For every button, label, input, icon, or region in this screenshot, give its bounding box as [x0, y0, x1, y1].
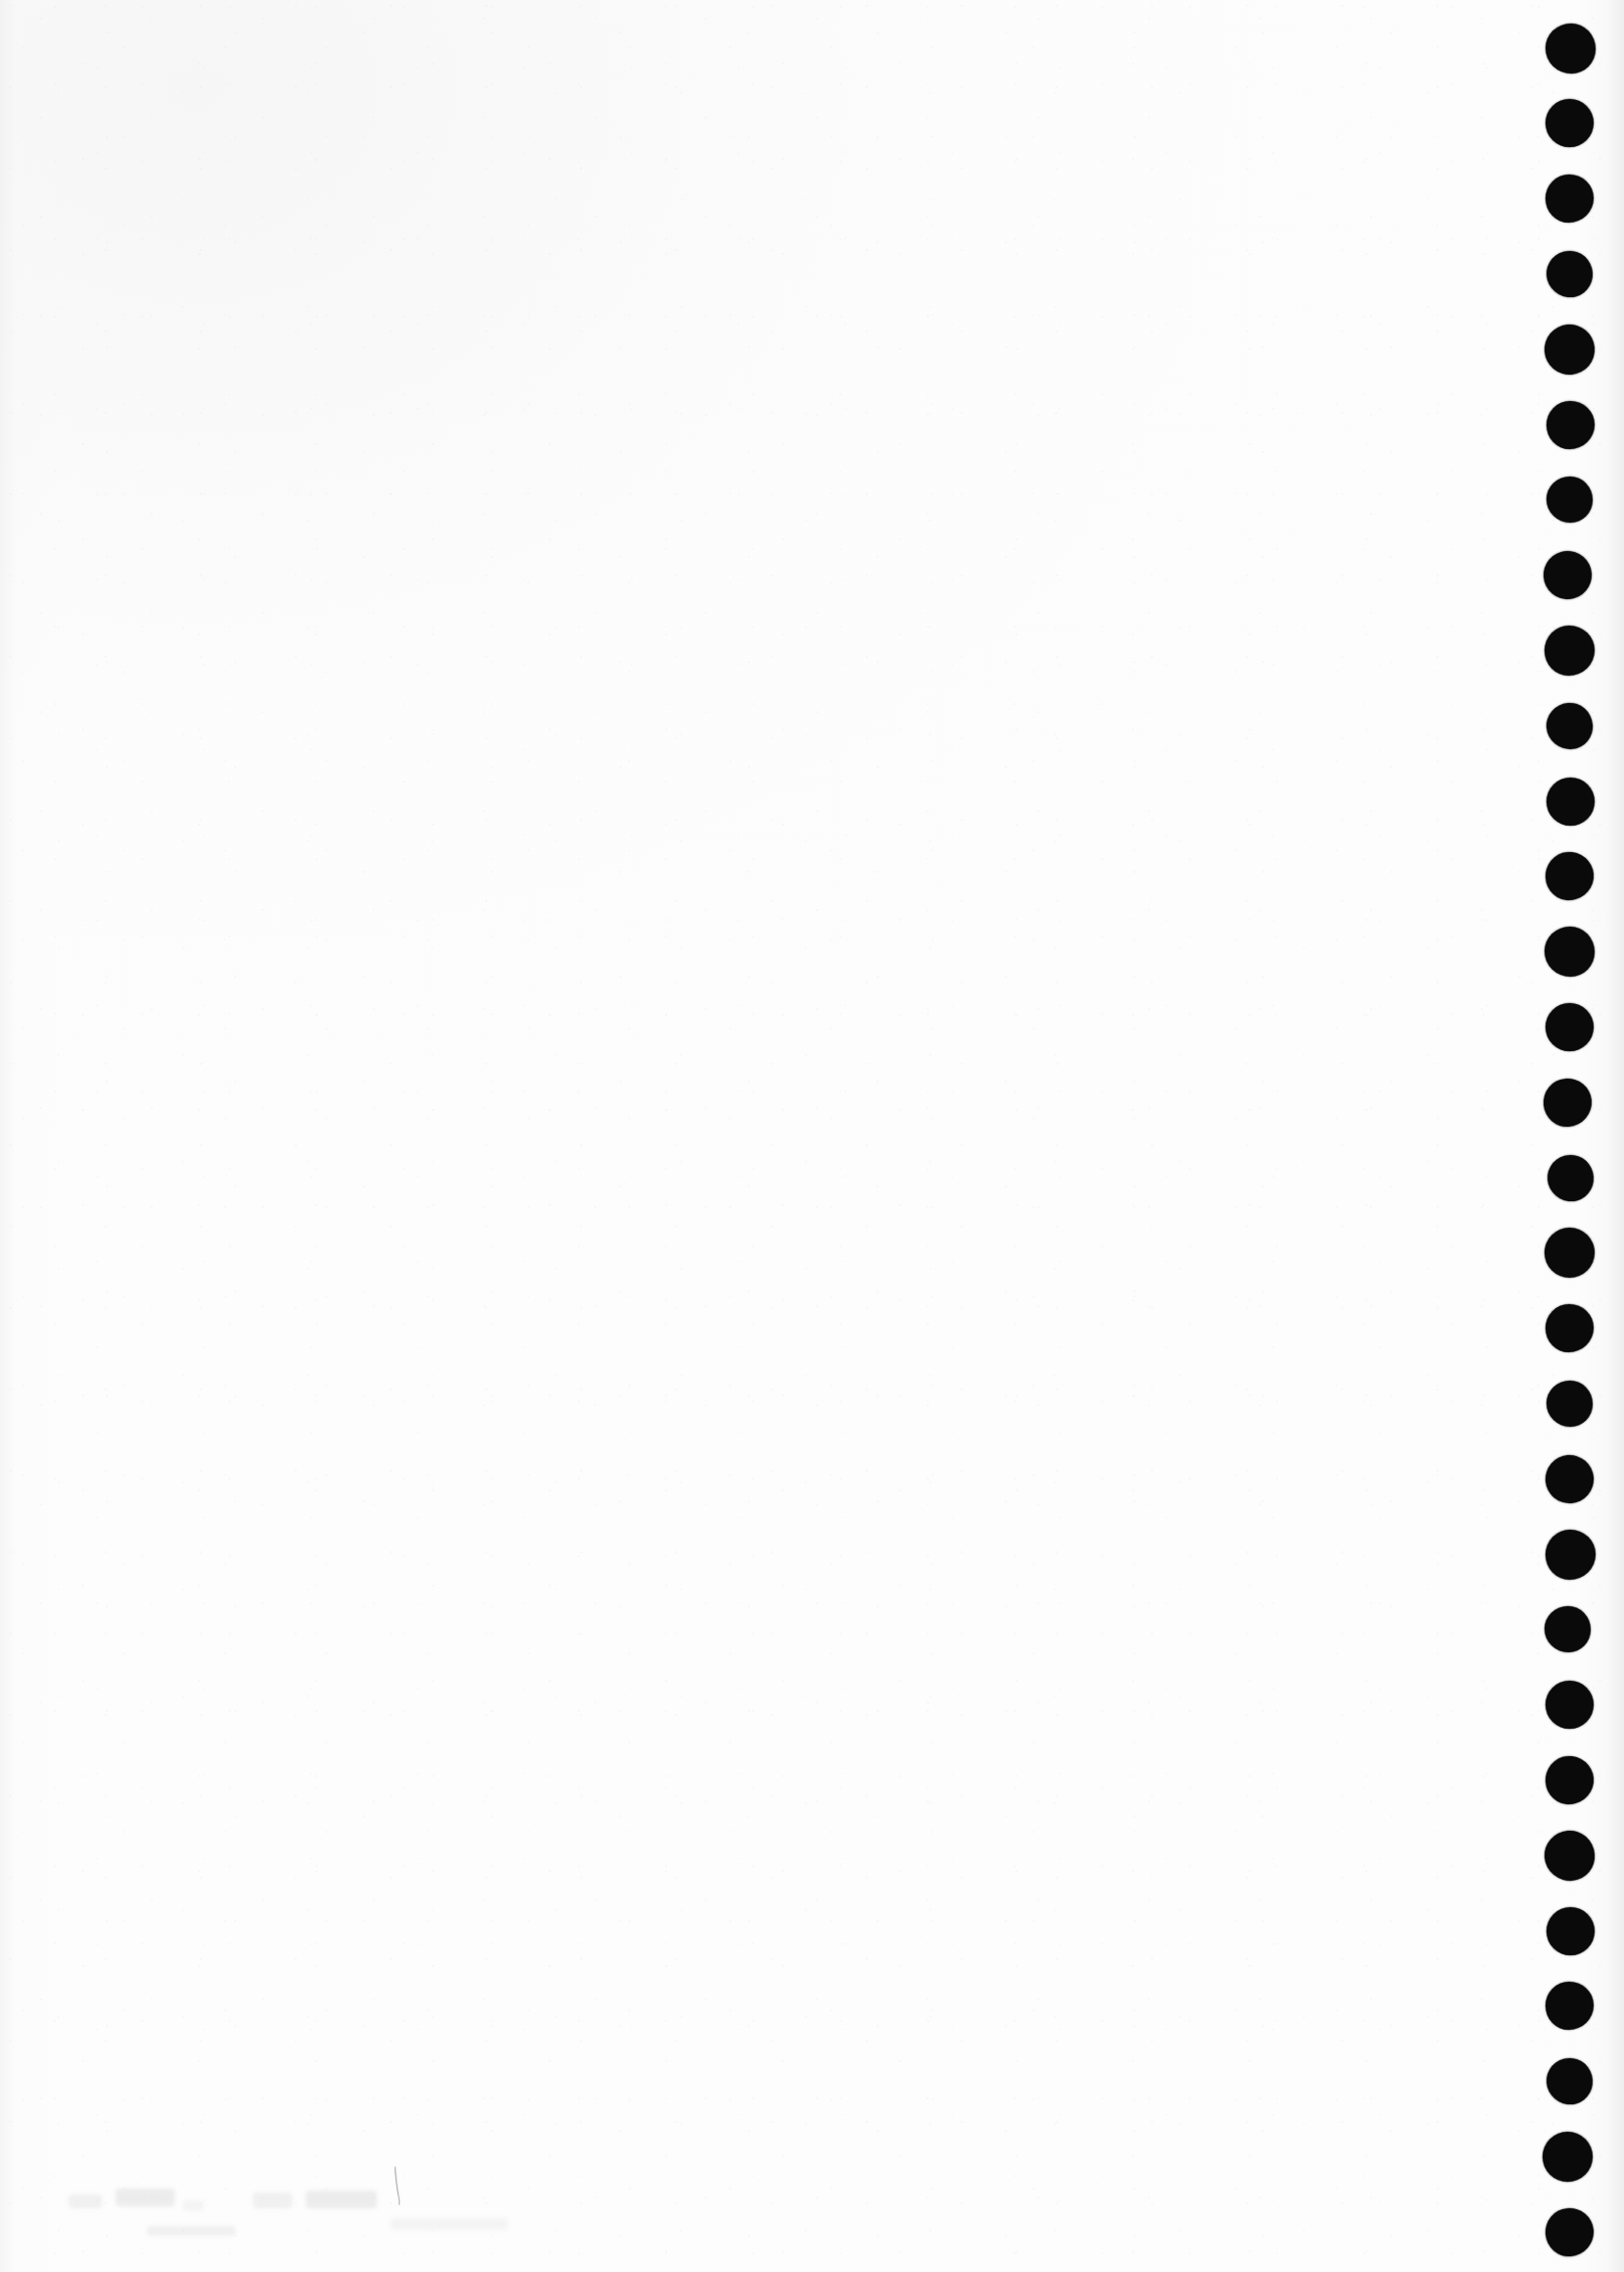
scanned-page: [0, 0, 1624, 2272]
page-content-area: [127, 147, 1412, 2128]
